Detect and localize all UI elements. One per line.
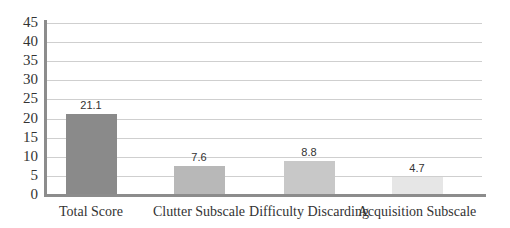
data-label: 4.7 (377, 162, 457, 174)
x-axis (44, 194, 486, 197)
gridline (46, 23, 482, 24)
y-tick-label: 30 (0, 72, 38, 87)
bar-clutter-subscale (174, 166, 225, 195)
y-tick-label: 20 (0, 111, 38, 126)
y-tick-label: 45 (0, 15, 38, 30)
y-tick-label: 0 (0, 187, 38, 202)
gridline (46, 42, 482, 43)
data-label: 21.1 (51, 99, 131, 111)
y-tick-label: 5 (0, 168, 38, 183)
y-tick-label: 15 (0, 130, 38, 145)
data-label: 8.8 (269, 146, 349, 158)
y-tick-label: 10 (0, 149, 38, 164)
bar-chart: 05101520253035404521.1Total Score7.6Clut… (0, 0, 510, 228)
gridline (46, 80, 482, 81)
y-tick-label: 25 (0, 91, 38, 106)
data-label: 7.6 (159, 151, 239, 163)
x-category-label: Acquisition Subscale (347, 204, 487, 220)
y-axis (44, 20, 47, 197)
bar-acquisition-subscale (392, 177, 443, 195)
bar-difficulty-discarding (284, 161, 335, 195)
bar-total-score (66, 114, 117, 195)
y-tick-label: 40 (0, 34, 38, 49)
gridline (46, 61, 482, 62)
y-tick-label: 35 (0, 53, 38, 68)
